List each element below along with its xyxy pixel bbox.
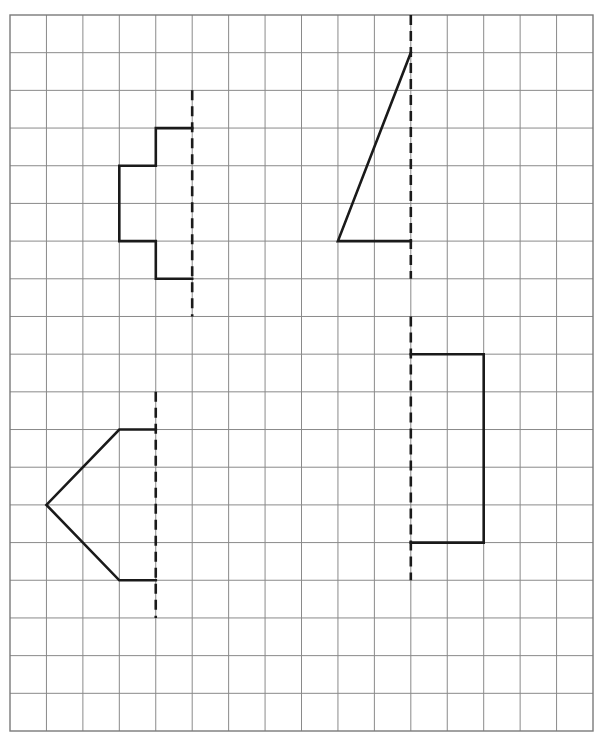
grid [10,15,593,731]
symmetry-grid-canvas [0,0,598,741]
